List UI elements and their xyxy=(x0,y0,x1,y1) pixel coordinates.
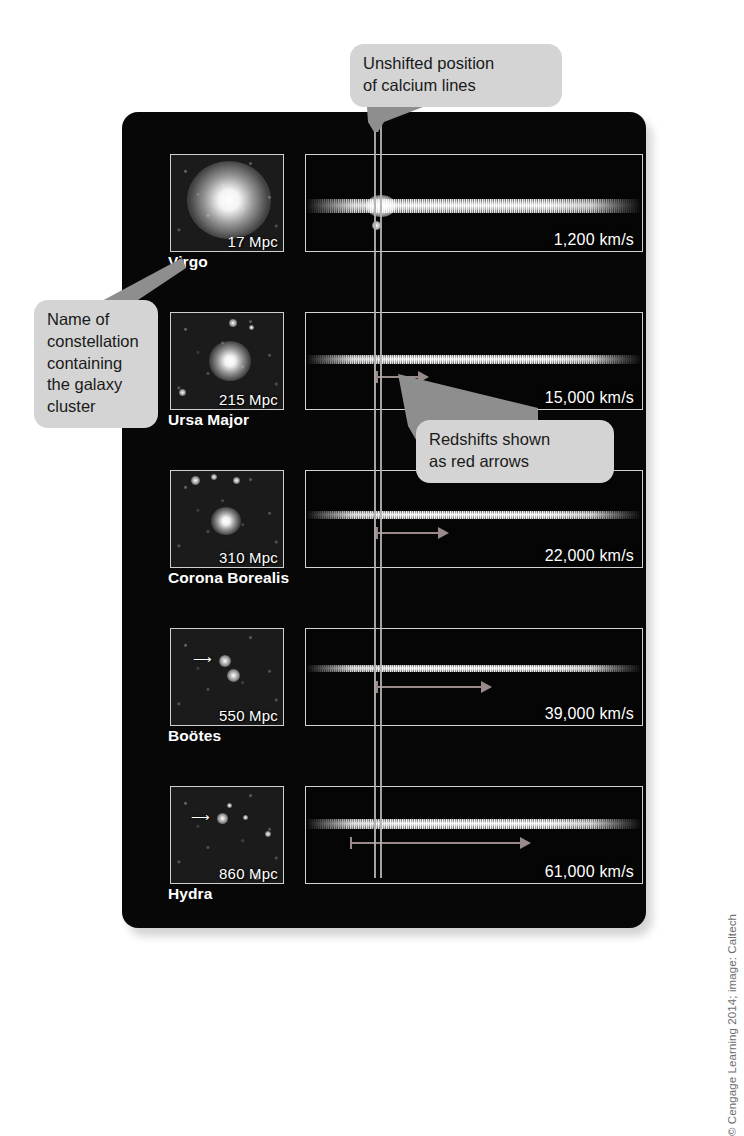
spectrum-bulge xyxy=(366,195,396,217)
companion-star xyxy=(265,831,271,837)
companion-star xyxy=(249,325,254,330)
companion-star xyxy=(229,319,237,327)
callout-constellation-line3: containing xyxy=(47,353,145,375)
velocity-label: 1,200 km/s xyxy=(554,231,634,249)
velocity-label: 39,000 km/s xyxy=(545,705,634,723)
callout-calcium-line1: Unshifted position xyxy=(363,53,549,75)
target-arrow-icon: ⟶ xyxy=(193,653,212,666)
callout-redshift: Redshifts shown as red arrows xyxy=(416,420,614,483)
callout-redshift-line2: as red arrows xyxy=(429,451,601,473)
cluster-name-label: Hydra xyxy=(168,885,212,903)
spectrum-trace xyxy=(306,511,642,519)
galaxy-thumbnail: 17 Mpc xyxy=(170,154,284,252)
figure-panel: 17 Mpc Virgo 1,200 km/s 215 Mpc Ursa Maj… xyxy=(122,112,646,928)
callout-constellation-line2: constellation xyxy=(47,331,145,353)
distance-label: 17 Mpc xyxy=(228,233,278,250)
callout-constellation: Name of constellation containing the gal… xyxy=(34,300,158,428)
spectrum-panel: 61,000 km/s xyxy=(305,786,643,884)
galaxy-glow xyxy=(187,161,271,239)
callout-calcium: Unshifted position of calcium lines xyxy=(350,44,562,107)
redshift-arrow xyxy=(376,527,449,539)
copyright-credit: © Cengage Learning 2014; image: Caltech xyxy=(726,914,738,1136)
redshift-arrow xyxy=(350,837,531,849)
cluster-name-label: Corona Borealis xyxy=(168,569,289,587)
callout-constellation-line4: the galaxy xyxy=(47,374,145,396)
galaxy-thumbnail: 215 Mpc xyxy=(170,312,284,410)
distance-label: 310 Mpc xyxy=(219,549,278,566)
table-row: ⟶ 550 Mpc Boötes 39,000 km/s xyxy=(122,586,646,744)
galaxy-thumbnail: 310 Mpc xyxy=(170,470,284,568)
companion-star xyxy=(233,477,240,484)
galaxy-glow xyxy=(211,507,241,535)
spectrum-trace xyxy=(306,665,642,672)
callout-constellation-line1: Name of xyxy=(47,309,145,331)
target-arrow-icon: ⟶ xyxy=(191,811,210,824)
galaxy-thumbnail: ⟶ 860 Mpc xyxy=(170,786,284,884)
companion-star xyxy=(227,669,240,682)
cluster-name-label: Ursa Major xyxy=(168,411,249,429)
callout-calcium-line2: of calcium lines xyxy=(363,75,549,97)
spectrum-panel: 39,000 km/s xyxy=(305,628,643,726)
callout-constellation-line5: cluster xyxy=(47,396,145,418)
velocity-label: 22,000 km/s xyxy=(545,547,634,565)
velocity-label: 15,000 km/s xyxy=(545,389,634,407)
cluster-name-label: Boötes xyxy=(168,727,221,745)
distance-label: 550 Mpc xyxy=(219,707,278,724)
galaxy-thumbnail: ⟶ 550 Mpc xyxy=(170,628,284,726)
companion-star xyxy=(243,815,248,820)
companion-star xyxy=(227,803,232,808)
table-row: 17 Mpc Virgo 1,200 km/s xyxy=(122,112,646,270)
galaxy-glow xyxy=(217,813,228,824)
redshift-arrow xyxy=(376,681,492,693)
companion-star xyxy=(191,476,200,485)
table-row: ⟶ 860 Mpc Hydra 61,000 km/s xyxy=(122,744,646,902)
spectrum-panel: 22,000 km/s xyxy=(305,470,643,568)
companion-star xyxy=(179,389,186,396)
callout-redshift-line1: Redshifts shown xyxy=(429,429,601,451)
spectrum-trace xyxy=(306,355,642,364)
galaxy-glow xyxy=(209,341,251,381)
distance-label: 215 Mpc xyxy=(219,391,278,408)
spectrum-trace xyxy=(306,199,642,213)
spectrum-trace xyxy=(306,819,642,829)
spectrum-panel: 1,200 km/s xyxy=(305,154,643,252)
galaxy-glow xyxy=(219,655,231,667)
companion-star xyxy=(211,474,217,480)
spectrum-knot xyxy=(372,221,381,230)
velocity-label: 61,000 km/s xyxy=(545,863,634,881)
table-row: 215 Mpc Ursa Major 15,000 km/s xyxy=(122,270,646,428)
distance-label: 860 Mpc xyxy=(219,865,278,882)
